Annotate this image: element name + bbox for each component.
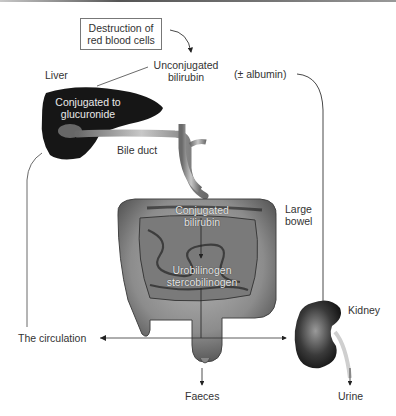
label-unconjugated-1: Unconjugated [150, 59, 222, 71]
rbc-arrow [170, 30, 191, 52]
label-faeces: Faeces [185, 390, 219, 402]
label-circulation: The circulation [18, 332, 86, 344]
label-albumin: (± albumin) [234, 68, 286, 80]
label-cb-1: Conjugated [168, 204, 236, 216]
ureter-shape [335, 332, 350, 378]
label-conjugated-glucuronide: Conjugated to glucuronide [52, 96, 124, 120]
label-cg-2: glucuronide [52, 108, 124, 120]
rbc-destruction-box: Destruction of red blood cells [80, 18, 162, 50]
label-lb-1: Large [285, 203, 312, 215]
label-ub-2: stercobilinogen [160, 276, 244, 288]
label-urobilinogen: Urobilinogen stercobilinogen [160, 264, 244, 288]
label-cg-1: Conjugated to [52, 96, 124, 108]
label-kidney: Kidney [348, 304, 380, 316]
label-cb-2: bilirubin [168, 216, 236, 228]
label-unconjugated: Unconjugated bilirubin [150, 59, 222, 83]
box-line-1: Destruction of [81, 22, 161, 34]
label-conjugated-bilirubin: Conjugated bilirubin [168, 204, 236, 228]
label-urine: Urine [338, 390, 363, 402]
box-line-2: red blood cells [81, 34, 161, 46]
label-lb-2: bowel [285, 215, 312, 227]
kidney-shape [295, 300, 341, 368]
label-unconjugated-2: bilirubin [150, 71, 222, 83]
label-large-bowel: Large bowel [285, 203, 312, 227]
label-liver: Liver [45, 69, 68, 81]
label-ub-1: Urobilinogen [160, 264, 244, 276]
albumin-to-kidney-arrow [297, 74, 323, 318]
label-bile-duct: Bile duct [117, 144, 157, 156]
